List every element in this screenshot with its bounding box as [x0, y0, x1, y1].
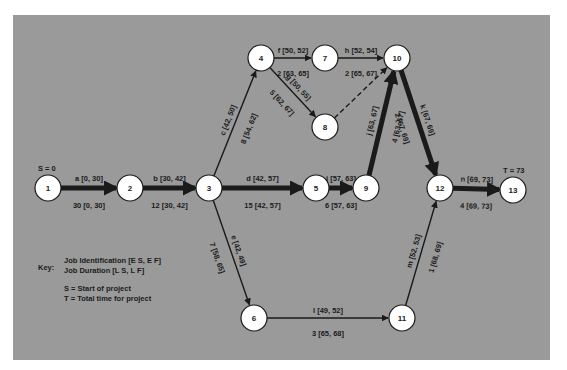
key-title: Key:: [38, 263, 54, 273]
edge-job-label: h [52, 54]: [345, 46, 378, 55]
node-5: 5: [303, 175, 329, 201]
start-label: S = 0: [38, 164, 56, 173]
edge-job-label: l [49, 52]: [313, 306, 344, 315]
edge-duration-label: 7 [58, 65]: [208, 241, 227, 275]
node-10: 10: [384, 45, 410, 71]
edge-job-label: a [0, 30]: [75, 174, 103, 183]
node-number: 4: [259, 54, 264, 63]
node-12: 12: [427, 175, 453, 201]
edge-duration-label: 1 [68, 69]: [427, 240, 445, 274]
node-number: 10: [393, 54, 402, 63]
edge-job-label: e [42, 49]: [229, 234, 248, 268]
edge-duration-label: 15 [42, 57]: [244, 201, 281, 210]
node-number: 9: [364, 184, 369, 193]
edge-12-13: [453, 188, 499, 189]
node-number: 5: [314, 184, 319, 193]
node-3: 3: [196, 175, 222, 201]
node-number: 1: [46, 184, 51, 193]
node-number: 6: [252, 314, 257, 323]
node-number: 13: [509, 186, 518, 195]
edge-job-label: d [42, 57]: [246, 174, 279, 183]
edge-duration-label: 3 [65, 68]: [312, 329, 345, 338]
node-11: 11: [389, 305, 415, 331]
edge-job-label: f [50, 52]: [278, 46, 309, 55]
node-7: 7: [312, 45, 338, 71]
node-number: 7: [323, 54, 328, 63]
key-job-duration: Job Duration [L S, L F]: [64, 266, 144, 276]
key-total-definition: T = Total time for project: [64, 294, 151, 304]
node-number: 8: [323, 123, 328, 132]
node-number: 11: [398, 314, 407, 323]
edge-duration-label: 8 [54, 62]: [239, 112, 259, 146]
edge-duration-label: 6 [57, 63]: [325, 201, 358, 210]
node-1: 1: [35, 175, 61, 201]
edge-duration-label: 4 [69, 73]: [460, 201, 493, 211]
node-6: 6: [241, 305, 267, 331]
edge-job-label: m [52, 53]: [405, 233, 423, 269]
node-13: 13: [500, 177, 526, 203]
node-number: 12: [436, 184, 445, 193]
node-4: 4: [248, 45, 274, 71]
key-job-identification: Job Identification [E S, E F]: [64, 256, 161, 266]
edge-job-label: i [57, 63]: [326, 174, 357, 183]
edge-duration-label: 2 [65, 67]: [345, 69, 378, 78]
node-number: 3: [207, 184, 212, 193]
node-2: 2: [117, 175, 143, 201]
end-label: T = 73: [503, 166, 524, 175]
node-8: 8: [312, 114, 338, 140]
edge-job-label: c [42, 50]: [218, 103, 238, 137]
network-diagram: a [0, 30]30 [0, 30]b [30, 42]12 [30, 42]…: [0, 0, 567, 370]
node-9: 9: [353, 175, 379, 201]
edge-job-label: n [69, 73]: [460, 175, 493, 185]
node-number: 2: [128, 184, 133, 193]
edge-duration-label: 12 [30, 42]: [151, 201, 188, 210]
edge-duration-label: 30 [0, 30]: [73, 201, 106, 210]
edge-job-label: b [30, 42]: [153, 174, 186, 183]
key-start-definition: S = Start of project: [64, 284, 131, 294]
